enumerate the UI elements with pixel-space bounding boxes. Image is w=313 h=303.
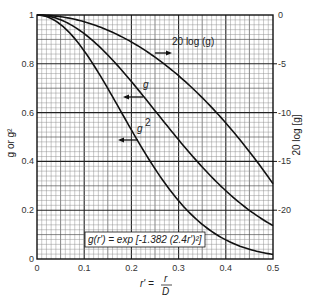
x-tick-label: 0.5 bbox=[267, 263, 280, 273]
x-axis-label-den: D bbox=[162, 286, 169, 297]
y-tick-label: 0.8 bbox=[21, 59, 34, 69]
label-g: g bbox=[143, 79, 149, 90]
label-g2: g bbox=[137, 123, 143, 134]
arrow-right-icon bbox=[155, 51, 172, 56]
label-g2-sup: 2 bbox=[145, 117, 151, 128]
y-tick-label: 0 bbox=[29, 254, 34, 264]
y-tick-label: 1 bbox=[29, 10, 34, 20]
x-tick-label: 0 bbox=[34, 263, 39, 273]
chart: 00.10.20.30.40.500.20.40.60.810-5-10-15-… bbox=[0, 0, 313, 303]
x-axis-label: r' = bbox=[140, 278, 154, 289]
y2-tick-label: -5 bbox=[278, 59, 286, 69]
y-tick-label: 0.4 bbox=[21, 156, 34, 166]
x-tick-label: 0.1 bbox=[78, 263, 91, 273]
label-20log: 20 log (g) bbox=[172, 36, 214, 47]
y-axis-label-left: g or g² bbox=[5, 128, 16, 158]
y-tick-label: 0.2 bbox=[21, 205, 34, 215]
y-axis-label-right: 20 log [g] bbox=[291, 114, 302, 155]
y2-tick-label: -15 bbox=[278, 156, 291, 166]
y2-tick-label: -20 bbox=[278, 205, 291, 215]
x-axis-label-num: r bbox=[164, 273, 168, 284]
formula: g(r') = exp [-1.382 (2.4r')²] bbox=[88, 234, 202, 245]
x-tick-label: 0.4 bbox=[220, 263, 233, 273]
y2-tick-label: 0 bbox=[278, 10, 283, 20]
x-tick-label: 0.3 bbox=[172, 263, 185, 273]
arrow-left-icon bbox=[123, 95, 143, 100]
y-tick-label: 0.6 bbox=[21, 108, 34, 118]
x-tick-label: 0.2 bbox=[125, 263, 138, 273]
y2-tick-label: -10 bbox=[278, 108, 291, 118]
